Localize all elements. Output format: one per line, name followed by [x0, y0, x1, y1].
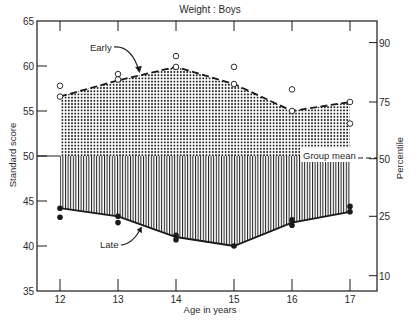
x-tick-label: 12 — [54, 294, 66, 305]
late-point — [115, 220, 121, 226]
early-arrowhead-icon — [136, 66, 142, 73]
late-area-fill — [60, 156, 350, 246]
x-tick-label: 17 — [344, 294, 356, 305]
y-tick-label: 45 — [23, 196, 35, 207]
y-axis-title: Standard score — [7, 123, 18, 187]
late-point — [173, 237, 179, 243]
chart-title: Weight : Boys — [179, 4, 241, 15]
early-point — [115, 77, 121, 83]
early-point — [347, 121, 353, 127]
late-point — [115, 214, 121, 220]
early-point — [57, 83, 63, 89]
y2-tick-label: 75 — [379, 97, 391, 108]
early-label: Early — [90, 42, 112, 53]
early-point — [173, 64, 179, 70]
chart-canvas: 354045505560659075502510121314151617 Wei… — [0, 0, 418, 323]
early-point — [347, 99, 353, 105]
early-point — [173, 53, 179, 59]
x-axis-title: Age in years — [184, 304, 237, 315]
y2-tick-label: 10 — [379, 271, 391, 282]
x-tick-label: 16 — [286, 294, 298, 305]
early-arrow-icon — [114, 47, 139, 71]
y-tick-label: 60 — [23, 61, 35, 72]
y2-axis-title: Percentile — [394, 137, 405, 179]
group-mean-label: Group mean — [303, 150, 356, 161]
y2-tick-label: 50 — [379, 154, 391, 165]
early-area-fill — [60, 67, 350, 156]
late-point — [57, 214, 63, 220]
early-point — [289, 108, 295, 114]
early-point — [57, 94, 63, 100]
y-tick-label: 55 — [23, 106, 35, 117]
early-point — [231, 81, 237, 87]
early-point — [115, 71, 121, 77]
late-point — [289, 217, 295, 223]
growth-chart: 354045505560659075502510121314151617 Wei… — [0, 0, 418, 323]
y2-tick-label: 25 — [379, 211, 391, 222]
late-point — [231, 243, 237, 249]
late-point — [57, 205, 63, 211]
early-point — [289, 87, 295, 93]
x-tick-label: 13 — [112, 294, 124, 305]
late-point — [289, 223, 295, 229]
late-point — [347, 204, 353, 210]
y-tick-label: 40 — [23, 241, 35, 252]
late-label: Late — [100, 239, 119, 250]
late-point — [347, 209, 353, 215]
y-tick-label: 35 — [23, 286, 35, 297]
y2-tick-label: 90 — [379, 38, 391, 49]
early-point — [231, 64, 237, 70]
x-tick-label: 14 — [170, 294, 182, 305]
y-tick-label: 50 — [23, 151, 35, 162]
y-tick-label: 65 — [23, 16, 35, 27]
